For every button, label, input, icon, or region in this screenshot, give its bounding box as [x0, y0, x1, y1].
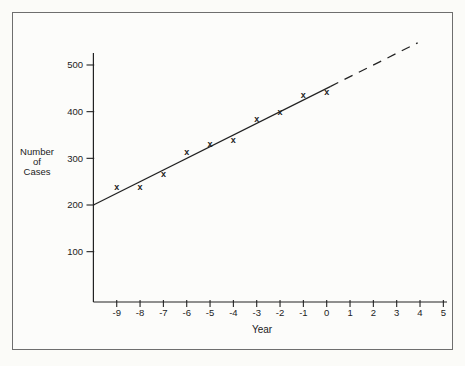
x-axis-tick-label--5: -5 [206, 307, 214, 318]
x-axis-tick-label-4: 4 [417, 307, 422, 318]
data-point-marker-year--9: x [114, 182, 119, 192]
data-point-marker-year--8: x [138, 182, 143, 192]
data-point-marker-year--6: x [184, 147, 189, 157]
cases-vs-year-scatter-chart: 100200300400500-9-8-7-6-5-4-3-2-1012345N… [0, 0, 465, 366]
data-point-marker-year--4: x [231, 135, 236, 145]
data-point-marker-year--5: x [208, 139, 213, 149]
x-axis-tick-label--2: -2 [276, 307, 284, 318]
x-axis-title: Year [252, 324, 273, 335]
x-axis-tick-label--3: -3 [252, 307, 260, 318]
data-point-marker-year--3: x [254, 114, 259, 124]
x-axis-tick-label-3: 3 [394, 307, 399, 318]
y-axis-tick-label-400: 400 [67, 106, 83, 117]
x-axis-tick-label--8: -8 [136, 307, 144, 318]
data-point-marker-year--1: x [301, 90, 306, 100]
x-axis-tick-label-5: 5 [441, 307, 446, 318]
x-axis-tick-label-2: 2 [371, 307, 376, 318]
x-axis-tick-label--1: -1 [299, 307, 307, 318]
x-axis-tick-label--7: -7 [159, 307, 167, 318]
x-axis-tick-label--9: -9 [113, 307, 121, 318]
x-axis-tick-label--4: -4 [229, 307, 237, 318]
trend-line-dashed-extrapolation [330, 43, 417, 87]
y-axis-tick-label-100: 100 [67, 246, 83, 257]
data-point-marker-year--2: x [278, 107, 283, 117]
y-axis-tick-label-500: 500 [67, 59, 83, 70]
y-axis-tick-label-200: 200 [67, 199, 83, 210]
x-axis-tick-label-1: 1 [347, 307, 352, 318]
scanned-page: 100200300400500-9-8-7-6-5-4-3-2-1012345N… [0, 0, 465, 366]
data-point-marker-year-0: x [324, 87, 329, 97]
x-axis-tick-label-0: 0 [324, 307, 329, 318]
y-axis-title-line-2: Cases [24, 166, 51, 177]
y-axis-tick-label-300: 300 [67, 153, 83, 164]
data-point-marker-year--7: x [161, 169, 166, 179]
x-axis-tick-label--6: -6 [182, 307, 190, 318]
